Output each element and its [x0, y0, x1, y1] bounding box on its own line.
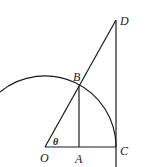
label-b: B — [73, 70, 81, 84]
angle-theta-label: θ — [53, 136, 59, 147]
geometry-diagram: D B O A C θ — [0, 0, 158, 167]
label-c: C — [120, 144, 129, 158]
label-d: D — [119, 14, 129, 28]
circle-arc — [0, 76, 116, 167]
label-a: A — [74, 152, 83, 166]
label-o: O — [40, 151, 49, 165]
segment-od — [45, 20, 116, 147]
